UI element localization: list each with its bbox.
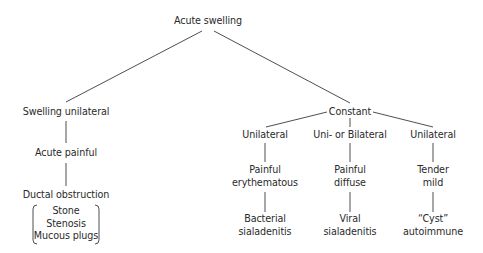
symptom-line-1: Painful	[232, 164, 298, 177]
node-swelling-unilateral: Swelling unilateral	[23, 106, 110, 119]
node-ductal-obstruction: Ductal obstruction	[23, 189, 110, 202]
edge-root-to-swelling-unilateral	[66, 31, 202, 102]
diagnosis-line-1: “Cyst”	[403, 213, 463, 226]
node-col3-symptom: Tender mild	[417, 164, 449, 189]
node-label: Acute swelling	[174, 15, 242, 28]
node-label: Ductal obstruction	[23, 189, 110, 202]
edge-root-to-constant	[214, 31, 350, 103]
node-col1-laterality: Unilateral	[242, 129, 287, 142]
symptom-line-1: Tender	[417, 164, 449, 177]
symptom-line-2: erythematous	[232, 176, 298, 189]
diagnosis-line-2: sialadenitis	[238, 225, 291, 238]
node-label: Unilateral	[242, 129, 287, 142]
edge-constant-to-unilateral-left	[266, 112, 327, 127]
node-acute-painful: Acute painful	[35, 147, 97, 160]
diagnosis-line-2: sialadenitis	[323, 225, 376, 238]
node-col2-diagnosis: Viral sialadenitis	[323, 213, 376, 238]
symptom-line-1: Painful	[334, 164, 366, 177]
cause-stone: Stone	[34, 205, 98, 218]
symptom-line-2: diffuse	[334, 176, 366, 189]
node-label: Unilateral	[410, 129, 455, 142]
node-acute-swelling: Acute swelling	[174, 15, 242, 28]
node-constant: Constant	[329, 106, 371, 119]
edge-constant-to-unilateral-right	[373, 112, 433, 127]
symptom-line-2: mild	[417, 176, 449, 189]
diagnosis-line-2: autoimmune	[403, 225, 463, 238]
node-label: Swelling unilateral	[23, 106, 110, 119]
node-col1-diagnosis: Bacterial sialadenitis	[238, 213, 291, 238]
node-obstruction-causes: Stone Stenosis Mucous plugs	[34, 205, 98, 243]
node-col2-laterality: Uni- or Bilateral	[313, 129, 386, 142]
diagnosis-line-1: Viral	[323, 213, 376, 226]
node-col2-symptom: Painful diffuse	[334, 164, 366, 189]
diagnosis-line-1: Bacterial	[238, 213, 291, 226]
node-label: Acute painful	[35, 147, 97, 160]
cause-stenosis: Stenosis	[34, 218, 98, 231]
node-col3-diagnosis: “Cyst” autoimmune	[403, 213, 463, 238]
node-col3-laterality: Unilateral	[410, 129, 455, 142]
node-label: Constant	[329, 106, 371, 119]
flowchart-acute-swelling: Acute swelling Swelling unilateral Acute…	[0, 0, 483, 253]
cause-mucous-plugs: Mucous plugs	[34, 230, 98, 243]
node-label: Uni- or Bilateral	[313, 129, 386, 142]
node-col1-symptom: Painful erythematous	[232, 164, 298, 189]
